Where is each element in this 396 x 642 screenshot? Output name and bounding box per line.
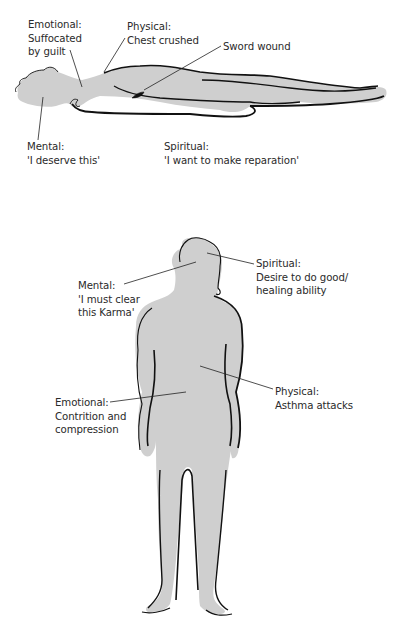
label-standing-emotional: Emotional: Contrition and compression: [55, 396, 126, 437]
label-standing-spiritual: Spiritual: Desire to do good/ healing ab…: [256, 257, 348, 298]
label-heading: Physical:: [275, 385, 353, 399]
diagram-canvas: Emotional: Suffocated by guilt Physical:…: [0, 0, 396, 642]
label-line: 'I must clear: [78, 293, 140, 307]
standing-left-leg-outline: [148, 470, 162, 608]
label-heading: Mental:: [78, 279, 140, 293]
label-heading: Spiritual:: [256, 257, 348, 271]
label-line: Asthma attacks: [275, 399, 353, 413]
label-heading: Emotional:: [55, 396, 126, 410]
label-line: compression: [55, 423, 126, 437]
label-line: this Karma': [78, 306, 140, 320]
label-standing-physical: Physical: Asthma attacks: [275, 385, 353, 412]
label-line: healing ability: [256, 284, 348, 298]
standing-figure: [0, 0, 396, 642]
standing-body-silhouette: [135, 237, 243, 614]
label-standing-mental: Mental: 'I must clear this Karma': [78, 279, 140, 320]
label-line: Contrition and: [55, 410, 126, 424]
label-line: Desire to do good/: [256, 271, 348, 285]
